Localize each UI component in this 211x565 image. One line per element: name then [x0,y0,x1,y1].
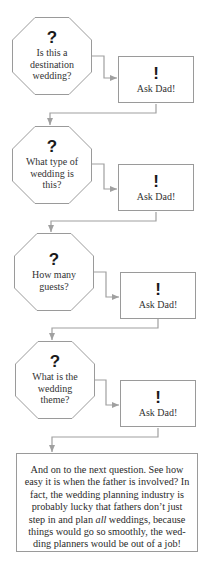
question-text: What type of wedding is this? [21,156,83,191]
exclamation-icon: ! [155,282,161,297]
exclamation-icon: ! [153,66,159,81]
answer-box-2: ! Ask Dad! [118,164,194,211]
answer-text: Ask Dad! [137,83,176,94]
answer-text: Ask Dad! [139,299,178,310]
flowchart: ? Is this a destination wedding? ! Ask D… [0,0,211,565]
question-mark-icon: ? [50,354,60,369]
question-mark-icon: ? [47,139,57,154]
conclusion-box: And on to the next question. See how eas… [16,453,198,552]
answer-box-3: ! Ask Dad! [120,272,196,319]
question-text: Is this a destination wedding? [21,47,83,82]
answer-text: Ask Dad! [137,191,176,202]
question-octagon-4: ? What is the wedding theme? [15,341,95,419]
question-text: How many guests? [23,269,85,292]
question-mark-icon: ? [49,252,59,267]
question-octagon-1: ? Is this a destination wedding? [12,17,92,95]
exclamation-icon: ! [153,174,159,189]
answer-text: Ask Dad! [139,407,178,418]
question-mark-icon: ? [47,30,57,45]
answer-box-4: ! Ask Dad! [120,380,196,427]
question-text: What is the wedding theme? [24,371,86,406]
question-octagon-3: ? How many guests? [14,233,94,311]
conclusion-emphasis: all [96,514,107,525]
answer-box-1: ! Ask Dad! [118,56,194,103]
question-octagon-2: ? What type of wedding is this? [12,126,92,204]
exclamation-icon: ! [155,390,161,405]
